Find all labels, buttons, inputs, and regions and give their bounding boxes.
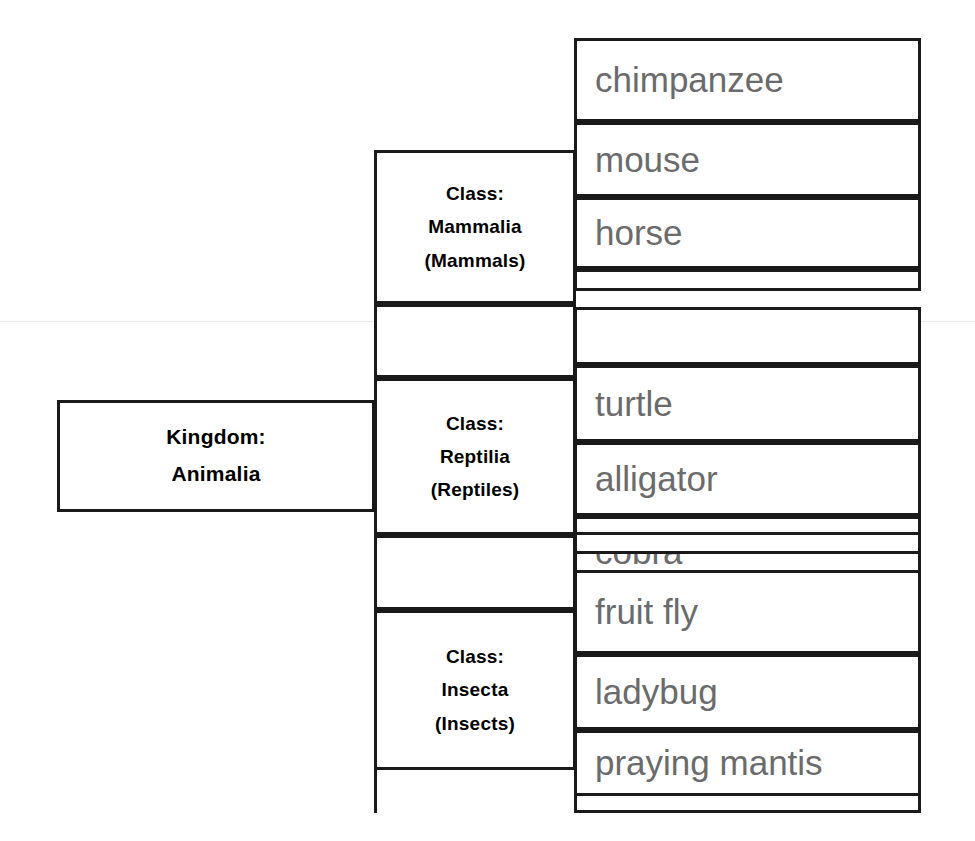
- class-mammalia-line3: (Mammals): [424, 244, 525, 277]
- kingdom-label-line2: Animalia: [171, 456, 260, 493]
- kingdom-label-line1: Kingdom:: [166, 419, 266, 456]
- species-label: chimpanzee: [595, 60, 784, 100]
- species-cell-insect-empty[interactable]: [574, 793, 921, 813]
- class-reptilia-line3: (Reptiles): [431, 473, 520, 506]
- species-cell-mammal-empty[interactable]: [574, 269, 921, 291]
- species-label: mouse: [595, 140, 700, 180]
- kingdom-box[interactable]: Kingdom: Animalia: [57, 400, 375, 512]
- species-cell-chimpanzee[interactable]: chimpanzee: [574, 38, 921, 122]
- species-cell-mouse[interactable]: mouse: [574, 122, 921, 197]
- species-cell-reptile-empty-bottom[interactable]: [574, 532, 921, 554]
- species-cell-praying-mantis[interactable]: praying mantis: [574, 730, 921, 796]
- species-cell-alligator[interactable]: alligator: [574, 442, 921, 516]
- class-box-insecta[interactable]: Class: Insecta (Insects): [374, 610, 576, 770]
- class-box-reptilia[interactable]: Class: Reptilia (Reptiles): [374, 378, 576, 535]
- species-label: fruit fly: [595, 592, 698, 632]
- class-insecta-line3: (Insects): [435, 707, 515, 740]
- species-label: turtle: [595, 384, 673, 424]
- class-spacer-mammalia-reptilia: [374, 304, 576, 378]
- species-label: ladybug: [595, 672, 718, 712]
- class-reptilia-line1: Class:: [446, 407, 504, 440]
- class-insecta-line1: Class:: [446, 640, 504, 673]
- species-cell-ladybug[interactable]: ladybug: [574, 654, 921, 730]
- species-label: praying mantis: [595, 743, 823, 783]
- species-label: alligator: [595, 459, 718, 499]
- class-reptilia-line2: Reptilia: [440, 440, 510, 473]
- species-cell-horse[interactable]: horse: [574, 197, 921, 269]
- classification-diagram: Kingdom: Animalia Class: Mammalia (Mamma…: [0, 0, 975, 841]
- species-cell-reptile-empty-top[interactable]: [574, 307, 921, 365]
- species-cell-turtle[interactable]: turtle: [574, 365, 921, 442]
- class-mammalia-line2: Mammalia: [428, 210, 521, 243]
- species-cell-fruit-fly[interactable]: fruit fly: [574, 570, 921, 654]
- class-box-mammalia[interactable]: Class: Mammalia (Mammals): [374, 150, 576, 304]
- species-label: horse: [595, 213, 683, 253]
- class-mammalia-line1: Class:: [446, 177, 504, 210]
- class-spacer-reptilia-insecta: [374, 535, 576, 610]
- class-insecta-line2: Insecta: [442, 673, 509, 706]
